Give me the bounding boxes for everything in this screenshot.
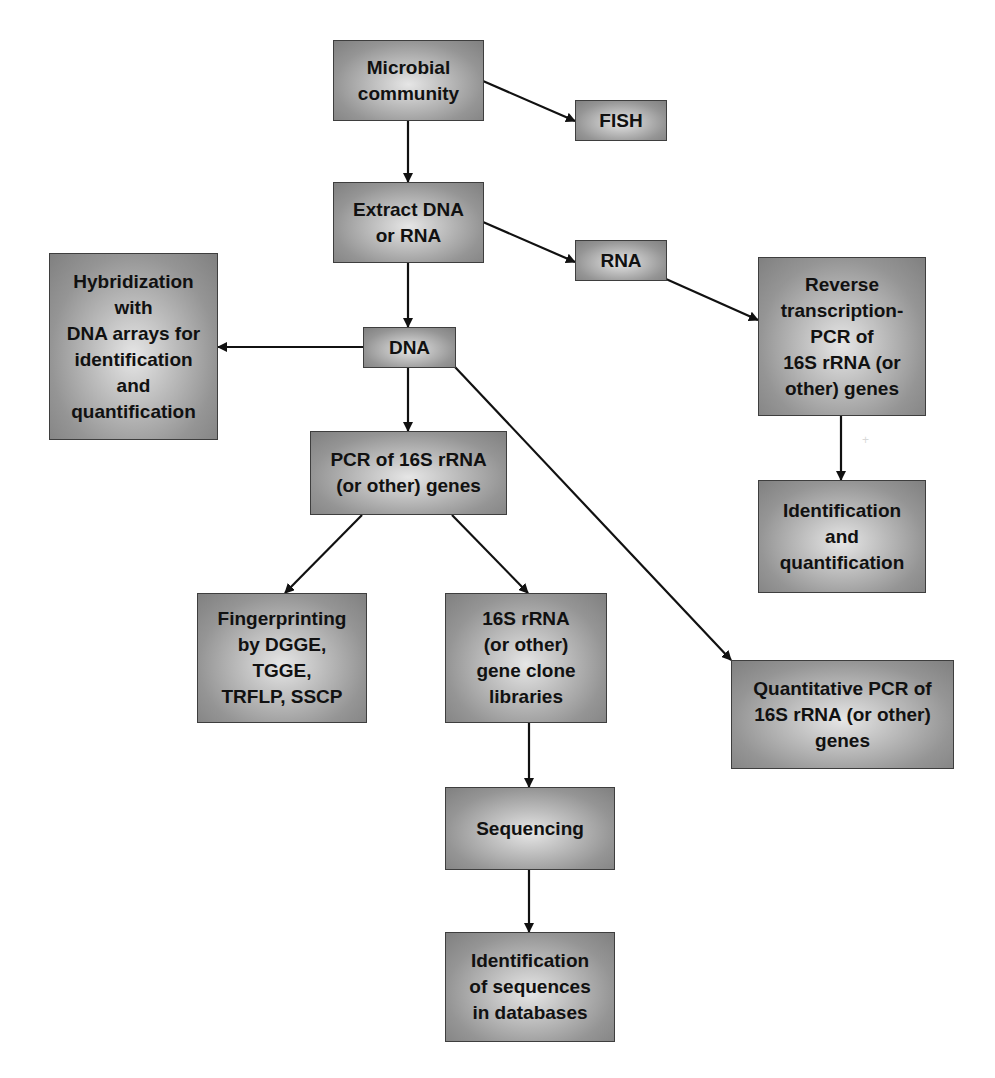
arrow-rna-to-rt-pcr	[666, 279, 758, 320]
node-identification-quantification: Identification and quantification	[758, 480, 926, 593]
node-database-identification: Identification of sequences in databases	[445, 932, 615, 1042]
node-label: DNA	[389, 335, 430, 361]
node-label: Fingerprinting by DGGE, TGGE, TRFLP, SSC…	[218, 606, 347, 710]
node-rt-pcr: Reverse transcription- PCR of 16S rRNA (…	[758, 257, 926, 416]
node-quantitative-pcr: Quantitative PCR of 16S rRNA (or other) …	[731, 660, 954, 769]
figure-caption	[0, 1064, 995, 1078]
node-fish: FISH	[575, 100, 667, 141]
node-fingerprinting: Fingerprinting by DGGE, TGGE, TRFLP, SSC…	[197, 593, 367, 723]
arrow-extract-to-rna	[483, 222, 575, 262]
node-dna: DNA	[363, 327, 456, 368]
node-label: Hybridization with DNA arrays for identi…	[67, 269, 200, 425]
node-clone-libraries: 16S rRNA (or other) gene clone libraries	[445, 593, 607, 723]
node-label: RNA	[600, 248, 641, 274]
node-label: Extract DNA or RNA	[353, 197, 464, 249]
node-sequencing: Sequencing	[445, 787, 615, 870]
arrow-microbial-community-to-fish	[483, 81, 575, 121]
node-extract-dna-or-rna: Extract DNA or RNA	[333, 182, 484, 263]
node-label: 16S rRNA (or other) gene clone libraries	[476, 606, 575, 710]
node-label: Reverse transcription- PCR of 16S rRNA (…	[781, 272, 903, 402]
node-label: Identification of sequences in databases	[469, 948, 590, 1026]
node-label: Quantitative PCR of 16S rRNA (or other) …	[753, 676, 931, 754]
flowchart-canvas: Microbial community FISH Extract DNA or …	[0, 0, 995, 1078]
arrow-pcr-to-fingerprinting	[285, 515, 362, 593]
node-label: FISH	[599, 108, 642, 134]
scan-artifact: +	[862, 434, 869, 446]
node-label: Identification and quantification	[780, 498, 905, 576]
node-hybridization: Hybridization with DNA arrays for identi…	[49, 253, 218, 440]
node-label: PCR of 16S rRNA (or other) genes	[330, 447, 486, 499]
arrow-pcr-to-clone-libraries	[452, 515, 528, 593]
node-pcr: PCR of 16S rRNA (or other) genes	[310, 431, 507, 515]
node-label: Microbial community	[358, 55, 459, 107]
node-rna: RNA	[575, 240, 667, 281]
node-label: Sequencing	[476, 816, 584, 842]
node-microbial-community: Microbial community	[333, 40, 484, 121]
